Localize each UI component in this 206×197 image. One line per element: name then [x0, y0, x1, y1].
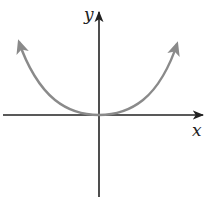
parabola-graph: y x — [0, 0, 206, 197]
parabola-left-branch — [19, 42, 99, 115]
x-axis-label: x — [192, 120, 202, 140]
y-axis-label: y — [83, 4, 94, 24]
parabola-right-branch — [99, 44, 177, 115]
